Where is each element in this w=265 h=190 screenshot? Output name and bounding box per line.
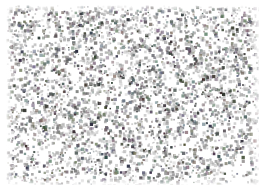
- texture-image: [6, 5, 259, 185]
- speckle-texture-canvas: [6, 5, 259, 185]
- figure-root: [0, 0, 265, 190]
